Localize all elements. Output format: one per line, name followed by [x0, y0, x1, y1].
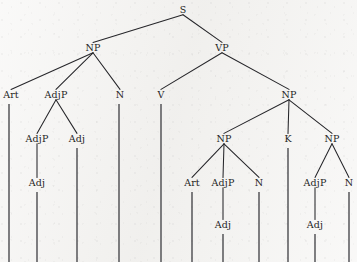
tree-edge-AdjP1-to-AdjP2 — [37, 100, 56, 134]
tree-node-Art2: Art — [183, 177, 200, 188]
tree-edge-S-to-NP1 — [93, 15, 183, 43]
tree-node-S: S — [180, 4, 187, 15]
tree-edge-NP3-to-AdjP3 — [223, 144, 224, 178]
tree-node-Adj4: Adj — [306, 219, 323, 230]
tree-node-Art1: Art — [2, 89, 19, 100]
tree-edge-NP2-to-NP3 — [224, 100, 289, 134]
tree-node-VP: VP — [214, 42, 229, 53]
tree-edge-S-to-VP — [183, 15, 222, 43]
tree-node-V: V — [156, 89, 164, 100]
tree-edge-NP1-to-Art1 — [11, 53, 93, 90]
tree-edge-NP1-to-N1 — [93, 53, 120, 90]
syntax-tree-figure: SNPVPArtAdjPNVNPAdjPAdjNPKNPAdjArtAdjPNA… — [0, 0, 357, 262]
tree-node-NP3: NP — [216, 133, 231, 144]
tree-node-AdjP2: AdjP — [25, 133, 49, 144]
tree-node-NP1: NP — [85, 42, 100, 53]
tree-edge-VP-to-V — [161, 53, 222, 90]
tree-node-NP2: NP — [281, 89, 296, 100]
tree-edge-layer — [11, 15, 349, 220]
tree-node-AdjP1: AdjP — [44, 89, 68, 100]
tree-node-N1: N — [116, 89, 124, 100]
tree-node-Adj1: Adj — [68, 133, 85, 144]
tree-label-layer: SNPVPArtAdjPNVNPAdjPAdjNPKNPAdjArtAdjPNA… — [2, 4, 353, 230]
tree-edge-VP-to-NP2 — [222, 53, 289, 90]
tree-edge-NP1-to-AdjP1 — [56, 53, 93, 90]
tree-edge-NP3-to-Art2 — [192, 144, 224, 178]
tree-edge-NP2-to-NP4 — [289, 100, 332, 134]
terminal-stem-layer — [9, 104, 349, 262]
syntax-tree-canvas: SNPVPArtAdjPNVNPAdjPAdjNPKNPAdjArtAdjPNA… — [0, 0, 357, 262]
tree-node-N3: N — [345, 177, 353, 188]
tree-node-Adj2: Adj — [28, 177, 45, 188]
tree-edge-AdjP1-to-Adj1 — [56, 100, 77, 134]
tree-edge-NP2-to-K — [288, 100, 289, 134]
tree-node-AdjP4: AdjP — [303, 177, 327, 188]
tree-edge-NP4-to-N3 — [332, 144, 349, 178]
tree-node-Adj3: Adj — [214, 219, 231, 230]
tree-node-AdjP3: AdjP — [211, 177, 235, 188]
tree-edge-NP4-to-AdjP4 — [315, 144, 332, 178]
tree-node-NP4: NP — [324, 133, 339, 144]
tree-node-K: K — [284, 133, 292, 144]
tree-edge-NP3-to-N2 — [224, 144, 259, 178]
tree-node-N2: N — [255, 177, 263, 188]
